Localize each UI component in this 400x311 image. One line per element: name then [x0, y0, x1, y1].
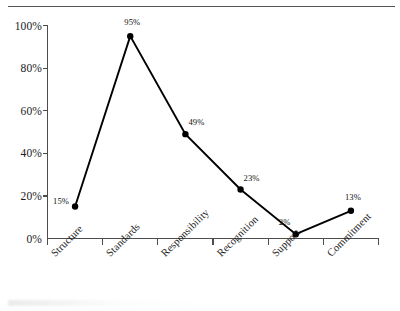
chart-series [72, 33, 354, 237]
data-point-label: 23% [244, 173, 260, 183]
data-point-label: 95% [124, 17, 140, 27]
data-point-label: 2% [279, 217, 291, 227]
data-point-label: 49% [188, 117, 204, 127]
data-point-marker[interactable] [127, 33, 133, 39]
y-axis-tick-label: 80% [21, 62, 42, 74]
line-chart-svg [0, 0, 400, 311]
data-point-label: 13% [345, 192, 361, 202]
y-axis-tick-label: 0% [26, 233, 42, 245]
chart-page: 0%20%40%60%80%100% 15%95%49%23%2%13% Str… [0, 0, 400, 311]
data-point-marker[interactable] [72, 203, 78, 209]
series-line [75, 36, 351, 234]
y-axis-tick-label: 20% [21, 190, 42, 202]
y-axis-tick-label: 100% [15, 20, 42, 32]
y-axis-tick-label: 40% [21, 147, 42, 159]
y-axis-tick-label: 60% [21, 105, 42, 117]
data-point-marker[interactable] [348, 208, 354, 214]
data-point-marker[interactable] [237, 186, 243, 192]
chart-axes [43, 26, 379, 245]
data-point-marker[interactable] [182, 131, 188, 137]
data-point-label: 15% [53, 196, 69, 206]
